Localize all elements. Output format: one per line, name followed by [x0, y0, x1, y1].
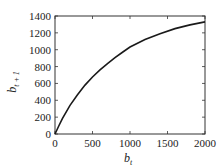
y-tick-label: 600: [35, 77, 52, 89]
plot-border: [55, 16, 205, 134]
y-tick-label: 800: [35, 61, 52, 73]
y-tick-label: 400: [35, 94, 52, 106]
y-tick-label: 1400: [29, 10, 52, 22]
x-tick-label: 500: [84, 137, 101, 149]
x-tick-label: 1000: [119, 137, 142, 149]
plot-frame: [55, 16, 205, 134]
x-axis-ticks: 0500100015002000: [52, 16, 216, 149]
chart: 0500100015002000 02004006008001000120014…: [0, 0, 220, 168]
y-tick-label: 200: [35, 111, 52, 123]
x-tick-label: 2000: [194, 137, 217, 149]
y-tick-label: 1200: [29, 27, 52, 39]
x-tick-label: 0: [52, 137, 58, 149]
x-axis-label: bt: [124, 151, 133, 167]
series-line: [55, 22, 205, 134]
x-tick-label: 1500: [157, 137, 180, 149]
y-tick-label: 1000: [29, 44, 52, 56]
y-axis-label: bt + 1: [5, 71, 21, 93]
y-tick-label: 0: [46, 128, 52, 140]
